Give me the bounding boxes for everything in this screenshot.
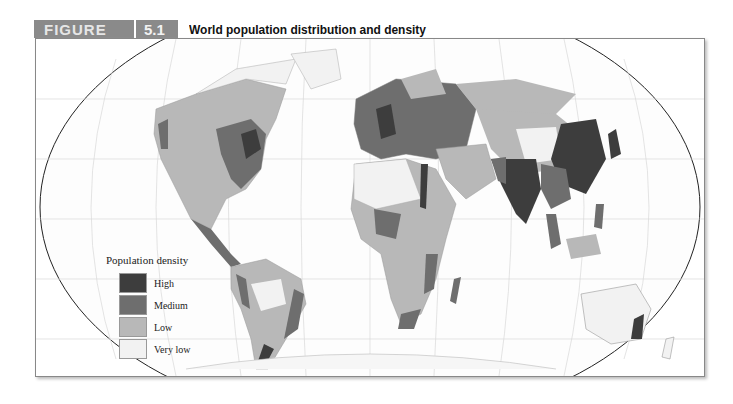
legend-item-medium: Medium (119, 294, 190, 316)
map-frame: Population density High Medium Low Very … (35, 38, 705, 377)
legend-swatch-medium (119, 295, 147, 315)
figure-header: FIGURE 5.1 World population distribution… (34, 20, 448, 38)
legend-label: Low (154, 322, 172, 333)
legend-item-low: Low (119, 316, 190, 338)
legend-item-very-low: Very low (119, 338, 190, 360)
map-legend: Population density High Medium Low Very … (106, 254, 190, 360)
legend-title: Population density (106, 254, 190, 266)
legend-swatch-very-low (119, 339, 147, 359)
legend-item-high: High (119, 272, 190, 294)
legend-label: Very low (154, 344, 190, 355)
legend-label: Medium (154, 300, 188, 311)
figure-label: FIGURE (34, 20, 134, 38)
legend-swatch-high (119, 273, 147, 293)
figure-title: World population distribution and densit… (178, 20, 426, 38)
legend-swatch-low (119, 317, 147, 337)
legend-label: High (154, 278, 174, 289)
figure-number: 5.1 (134, 20, 178, 38)
